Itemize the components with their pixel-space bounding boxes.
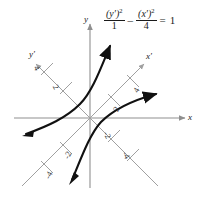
x-prime-axis-label: x′ — [146, 51, 152, 61]
y-prime-axis — [36, 63, 158, 186]
y-prime-axis-label: y′ — [29, 49, 35, 59]
y-prime-tick-2 — [60, 82, 72, 94]
equation-right-fraction: (x′)2 4 — [136, 9, 157, 31]
equation-right-denominator: 4 — [142, 21, 151, 32]
equation-right-numerator: (x′)2 — [136, 9, 157, 20]
equation-operator: – — [127, 14, 135, 26]
y-axis-label: y — [84, 14, 88, 24]
equation-left-denominator: 1 — [110, 21, 119, 32]
upper-branch-left-arrowhead — [22, 131, 34, 137]
lower-branch-bottom-arrowhead — [69, 172, 79, 185]
equation-left-fraction: (y′)2 1 — [104, 9, 125, 31]
equation-equals: = — [159, 14, 167, 26]
equation-left-numerator: (y′)2 — [104, 9, 125, 20]
equation-result: 1 — [169, 14, 177, 26]
y-prime-tick-4 — [41, 63, 53, 75]
x-axis-label: x — [188, 112, 192, 122]
equation: (y′)2 1 – (x′)2 4 = 1 — [104, 9, 176, 31]
x-prime-axis — [22, 64, 144, 186]
hyperbola-figure: (y′)2 1 – (x′)2 4 = 1 x y x′ y′ 2 4 -2 -… — [0, 0, 210, 198]
hyperbola-branch-upper — [26, 46, 110, 134]
x-prime-tick-2 — [108, 94, 120, 106]
